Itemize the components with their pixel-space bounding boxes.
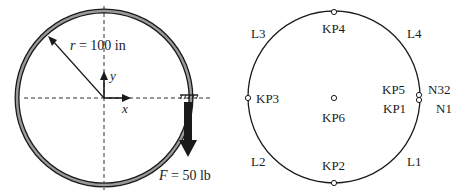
kp6-label: KP6 bbox=[322, 110, 346, 125]
kp2-label: KP2 bbox=[322, 158, 345, 173]
kp2-marker bbox=[331, 180, 336, 185]
x-axis-label: x bbox=[121, 101, 128, 116]
n32-label: N32 bbox=[428, 82, 450, 97]
l2-label: L2 bbox=[251, 154, 265, 169]
diagram-canvas: r = 100 in y x F = 50 lb KP4 KP2 KP3 KP6… bbox=[0, 0, 472, 194]
kp1-label: KP1 bbox=[383, 101, 406, 116]
force-arrow-shaft bbox=[184, 102, 192, 142]
kp5-marker bbox=[416, 92, 421, 97]
n1-label: N1 bbox=[436, 101, 452, 116]
force-label: F = 50 lb bbox=[158, 168, 211, 183]
kp1-marker bbox=[416, 97, 421, 102]
kp6-marker bbox=[331, 95, 336, 100]
kp4-marker bbox=[331, 9, 336, 14]
l1-label: L1 bbox=[407, 154, 421, 169]
l4-label: L4 bbox=[407, 26, 422, 41]
force-arrowhead-icon bbox=[179, 140, 197, 157]
kp4-label: KP4 bbox=[322, 21, 346, 36]
kp3-marker bbox=[245, 95, 250, 100]
right-figure: KP4 KP2 KP3 KP6 KP5 KP1 N32 N1 L3 L4 L2 … bbox=[245, 9, 451, 185]
left-figure: r = 100 in y x F = 50 lb bbox=[17, 6, 212, 190]
kp3-label: KP3 bbox=[256, 91, 279, 106]
y-arrowhead-icon bbox=[100, 71, 108, 80]
l3-label: L3 bbox=[251, 26, 265, 41]
kp5-label: KP5 bbox=[382, 82, 405, 97]
y-axis-label: y bbox=[108, 68, 116, 83]
radius-label: r = 100 in bbox=[70, 38, 126, 53]
